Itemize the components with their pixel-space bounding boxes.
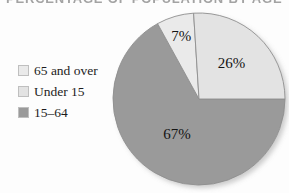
legend-item-under-15: Under 15 (18, 81, 122, 102)
legend-swatch-under-15 (18, 86, 29, 97)
slice-label-65-and-over: 7% (171, 28, 191, 44)
legend-item-15-64: 15–64 (18, 102, 122, 123)
legend-label-15-64: 15–64 (34, 106, 68, 120)
pie-slices-group (113, 13, 285, 185)
chart-legend: 65 and over Under 15 15–64 (18, 60, 122, 123)
page-title: PERCENTAGE OF POPULATION BY AGE GROUP (6, 0, 284, 5)
legend-label-under-15: Under 15 (34, 85, 85, 99)
pie-chart-figure: PERCENTAGE OF POPULATION BY AGE GROUP 65… (0, 0, 289, 193)
legend-label-65-and-over: 65 and over (34, 64, 98, 78)
pie-chart-plot-area: 67% 7% 26% (110, 10, 289, 193)
pie-chart-svg: 67% 7% 26% (110, 10, 289, 193)
legend-item-65-and-over: 65 and over (18, 60, 122, 81)
slice-label-15-64: 67% (163, 126, 191, 142)
legend-swatch-15-64 (18, 107, 29, 118)
legend-swatch-65-and-over (18, 65, 29, 76)
slice-label-under-15: 26% (218, 55, 246, 71)
